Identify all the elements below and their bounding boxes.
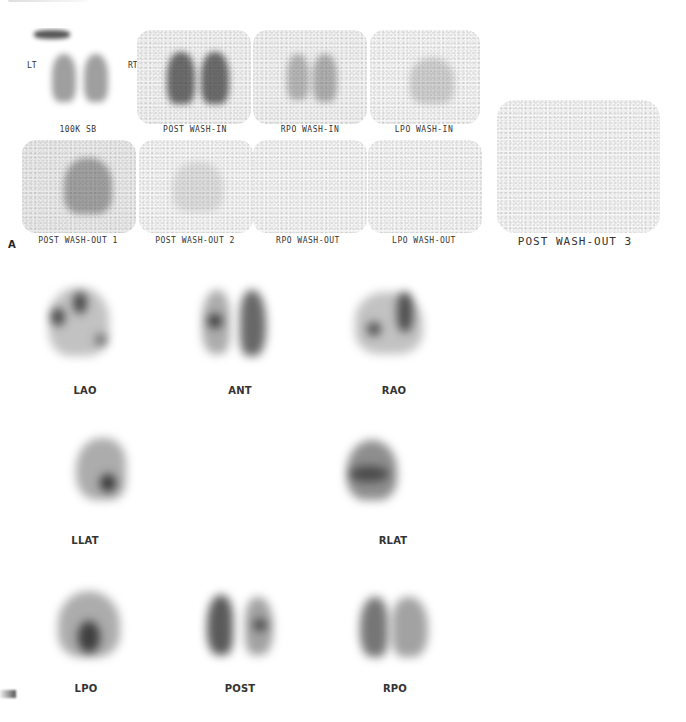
right-lung [313,54,337,102]
view-label: LAO [73,385,96,396]
left-lung [360,597,388,657]
view-label: POST [225,683,256,694]
view-rao [345,280,455,390]
view-lao [35,280,145,390]
hot-spot [367,322,381,336]
hot-spot [100,474,116,492]
frame-post-wash-out-3 [497,100,660,233]
frame-label: LPO WASH-OUT [392,236,456,245]
hot-spot [95,334,107,346]
frame-lpo-wash-out [368,140,482,233]
frame-label: POST WASH-IN [163,125,227,134]
frame-label: POST WASH-OUT 2 [155,236,235,245]
frame-rpo-wash-out [253,140,367,233]
right-lung [201,52,229,104]
view-ant [192,280,302,390]
orientation-label-left: LT [27,61,37,70]
frame-label: RPO WASH-OUT [276,236,340,245]
hot-spot [349,466,389,482]
frame-post-wash-in [137,30,251,124]
hot-spot [73,292,87,314]
hot-spot [51,308,65,326]
frame-100k-sb [22,28,132,123]
left-lung [287,54,309,100]
left-lung [207,595,233,655]
view-lpo [48,585,158,695]
panel-label-b-obscured [0,690,16,698]
view-label: LPO [75,683,98,694]
right-lung [240,290,266,356]
lung-region [173,162,223,212]
view-label: ANT [228,385,252,396]
left-lung [167,52,195,104]
frame-label: 100K SB [59,125,96,134]
frame-label: POST WASH-OUT 1 [38,236,118,245]
lung-region [355,292,423,354]
thyroid-hotspot [34,30,70,39]
hot-spot [208,314,222,328]
view-label: RAO [382,385,407,396]
view-llat [60,430,170,540]
frame-post-wash-out-2 [139,140,253,233]
frame-label: POST WASH-OUT 3 [518,235,632,248]
lung-region [76,438,126,500]
left-lung [52,54,76,102]
view-label: RLAT [379,535,408,546]
view-rpo [350,585,460,695]
panel-label: A [8,239,16,250]
view-post [195,585,305,695]
view-rlat [335,430,445,540]
frame-label: RPO WASH-IN [281,125,339,134]
frame-label: LPO WASH-IN [395,125,453,134]
hot-spot [253,619,267,631]
hot-spot [397,292,413,332]
lung-region [410,58,454,104]
frame-post-wash-out-1 [22,140,136,233]
right-lung [392,597,428,657]
hot-spot [78,621,100,653]
frame-rpo-wash-in [253,30,367,124]
frame-lpo-wash-in [370,30,480,124]
heading-fragment [8,0,88,2]
right-lung [84,54,108,102]
view-label: RPO [383,683,407,694]
view-label: LLAT [71,535,98,546]
lung-region [64,158,112,214]
